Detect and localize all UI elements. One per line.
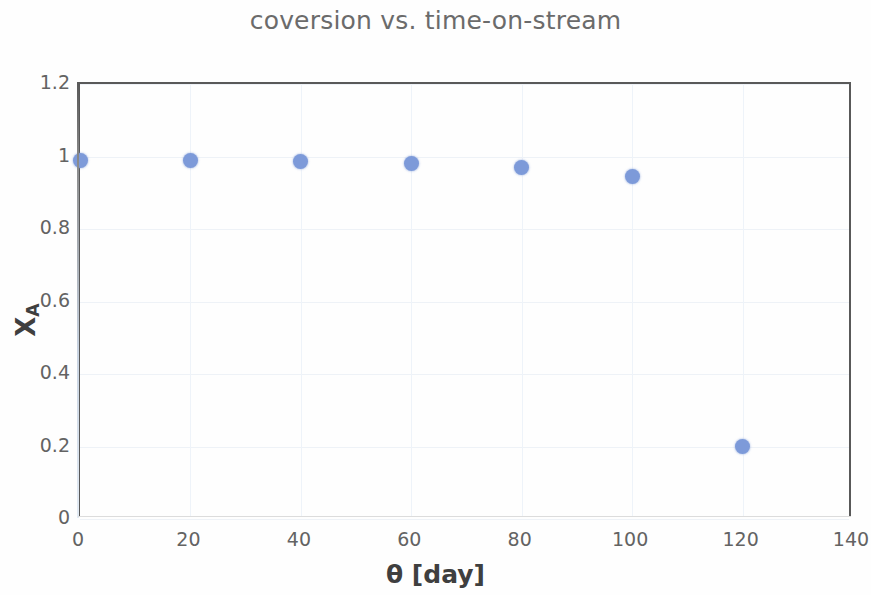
y-tick-label: 0.8 [8,216,70,238]
gridline-x [190,84,191,516]
y-axis-line [77,82,79,518]
gridline-y [80,519,849,520]
data-point [183,153,198,168]
chart-title: coversion vs. time-on-stream [0,6,871,35]
x-tick-label: 80 [490,528,550,550]
gridline-y [80,302,849,303]
y-tick-label: 1.2 [8,71,70,93]
x-tick-label: 140 [821,528,871,550]
y-axis-title-base: X [11,317,41,337]
data-point [735,439,750,454]
gridline-x [301,84,302,516]
data-point [293,154,308,169]
data-point [73,153,88,168]
x-axis-line [78,516,851,517]
gridline-y [80,447,849,448]
y-tick-label: 1 [8,144,70,166]
gridline-y [80,374,849,375]
y-tick-label: 0 [8,506,70,528]
chart-figure: coversion vs. time-on-stream 00.20.40.60… [0,0,871,595]
gridline-y [80,84,849,85]
x-tick-label: 40 [269,528,329,550]
plot-area [78,82,851,517]
data-point [514,160,529,175]
x-axis-title: θ [day] [0,560,871,589]
x-tick-label: 120 [711,528,771,550]
x-tick-label: 20 [158,528,218,550]
y-axis-title: XA [11,290,41,350]
y-tick-label: 0.4 [8,361,70,383]
gridline-y [80,229,849,230]
data-point [404,156,419,171]
y-axis-title-subscript: A [23,303,43,316]
x-tick-label: 0 [48,528,108,550]
gridline-x [411,84,412,516]
gridline-x [632,84,633,516]
x-tick-label: 60 [379,528,439,550]
x-axis-tick-labels: 020406080100120140 [0,528,871,554]
y-tick-label: 0.2 [8,434,70,456]
gridline-x [522,84,523,516]
x-tick-label: 100 [600,528,660,550]
data-point [625,169,640,184]
